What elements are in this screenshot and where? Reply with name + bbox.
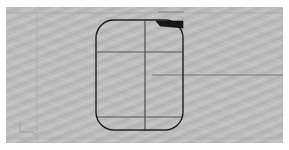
screenshot-root: Scanned engineering drawing of a rounded…: [0, 0, 289, 150]
technical-drawing-canvas: [0, 0, 289, 150]
